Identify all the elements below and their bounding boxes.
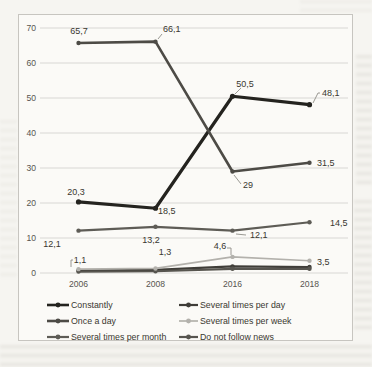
legend-key-marker: [56, 335, 61, 340]
data-label: 48,1: [322, 88, 340, 98]
data-point: [153, 266, 157, 270]
data-label: 3,5: [317, 257, 330, 267]
legend-key-marker: [186, 303, 191, 308]
legend-label: Several times per month: [71, 332, 166, 342]
data-label: 12,1: [43, 239, 61, 249]
data-label: 18,5: [158, 206, 176, 216]
line-chart: 706050403020100200620082016201820,318,55…: [0, 0, 372, 367]
legend-label: Do not follow news: [200, 332, 274, 342]
legend-label: Several times per week: [200, 316, 292, 326]
y-axis-tick-label: 30: [26, 163, 36, 173]
data-label: 65,7: [70, 26, 88, 36]
y-axis-tick-label: 70: [26, 23, 36, 33]
x-axis-label: 2016: [223, 279, 242, 289]
data-point: [76, 267, 80, 271]
data-point: [230, 169, 234, 173]
data-label: 29: [243, 180, 253, 190]
scanned-page: 706050403020100200620082016201820,318,55…: [0, 0, 372, 367]
y-axis-tick-label: 40: [26, 128, 36, 138]
data-point: [307, 267, 311, 271]
x-axis-label: 2008: [146, 279, 165, 289]
legend-key-marker: [186, 335, 191, 340]
data-point: [230, 228, 234, 232]
legend-label: Constantly: [71, 300, 113, 310]
data-point: [307, 259, 311, 263]
y-axis-tick-label: 10: [26, 233, 36, 243]
y-axis-tick-label: 60: [26, 58, 36, 68]
legend-label: Several times per day: [200, 300, 286, 310]
data-label: 1,1: [74, 255, 87, 265]
data-point: [307, 161, 311, 165]
x-axis-label: 2006: [69, 279, 88, 289]
data-point: [307, 220, 311, 224]
data-point: [230, 267, 234, 271]
data-point: [76, 199, 81, 204]
data-point: [153, 225, 157, 229]
data-label: 13,2: [142, 235, 160, 245]
data-label: 50,5: [236, 79, 254, 89]
data-point: [76, 41, 80, 45]
legend-key-marker: [56, 319, 61, 324]
data-point: [76, 228, 80, 232]
data-point: [153, 39, 157, 43]
y-axis-tick-label: 20: [26, 198, 36, 208]
x-axis-label: 2018: [300, 279, 319, 289]
y-axis-tick-label: 0: [31, 268, 36, 278]
data-label: 12,1: [250, 230, 268, 240]
data-label: 20,3: [67, 187, 85, 197]
legend-label: Once a day: [71, 316, 117, 326]
data-point: [230, 94, 235, 99]
legend-key-marker: [186, 319, 191, 324]
data-label: 1,3: [159, 247, 172, 257]
data-label: 31,5: [317, 158, 335, 168]
legend-key-marker: [56, 303, 61, 308]
data-label: 66,1: [163, 24, 181, 34]
data-label: 4,6: [214, 241, 227, 251]
data-point: [307, 102, 312, 107]
data-label: 14,5: [330, 218, 348, 228]
data-point: [230, 255, 234, 259]
y-axis-tick-label: 50: [26, 93, 36, 103]
